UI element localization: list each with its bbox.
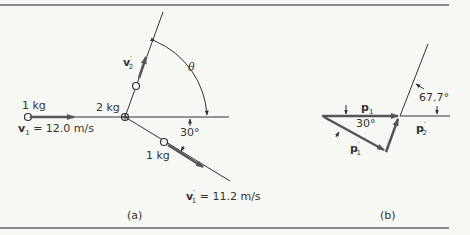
p2-prime-label: p′2 (416, 122, 427, 137)
target-velocity-label: v′2 (123, 56, 133, 71)
outgoing-mass-label: 1 kg (146, 150, 170, 161)
angle-30-label-b: 30° (356, 118, 376, 129)
p2-prime-arrow (386, 119, 398, 152)
p2-prime-direction-line (400, 44, 428, 116)
outgoing-direction-line (125, 117, 230, 181)
theta-label: θ (188, 62, 195, 73)
angle-67-label: 67.7° (419, 92, 449, 103)
target-ball (133, 83, 140, 90)
incoming-mass-label: 1 kg (22, 100, 46, 111)
p1-prime-label: p′1 (350, 142, 361, 157)
p1-label: p1 (361, 102, 373, 116)
theta-arc (155, 41, 207, 115)
panel-a (25, 12, 231, 181)
caption-b: (b) (380, 210, 396, 221)
outgoing-velocity-label: v′1 = 11.2 m/s (186, 190, 261, 205)
target-velocity-arrow (139, 57, 146, 78)
outgoing-velocity-arrow (168, 145, 203, 167)
deflection-angle-label: 30° (180, 127, 200, 138)
outgoing-ball (161, 139, 168, 146)
target-mass-label: 2 kg (96, 102, 120, 113)
incoming-velocity-label: v1 = 12.0 m/s (18, 123, 94, 137)
caption-a: (a) (127, 210, 142, 221)
